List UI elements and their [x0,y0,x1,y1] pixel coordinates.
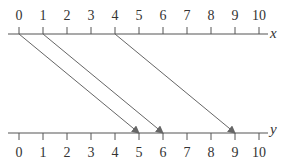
x-tick-label: 2 [64,8,71,23]
x-tick-label: 0 [16,8,23,23]
x-axis-number-line: 012345678910 x [8,8,277,41]
y-axis-variable-label: y [268,121,277,137]
x-tick-label: 9 [232,8,239,23]
y-tick-label: 6 [160,145,167,160]
mapping-arrow [19,34,139,133]
y-axis-number-line: 012345678910 y [8,121,277,160]
y-tick-label: 4 [112,145,119,160]
x-tick-label: 4 [112,8,119,23]
x-tick-label: 10 [252,8,266,23]
y-tick-label: 3 [88,145,95,160]
x-tick-label: 1 [40,8,47,23]
y-tick-label: 9 [232,145,239,160]
x-tick-label: 3 [88,8,95,23]
y-tick-label: 1 [40,145,47,160]
x-tick-label: 7 [184,8,191,23]
x-tick-label: 8 [208,8,215,23]
mapping-arrows [19,34,235,133]
mapping-diagram: 012345678910 x 012345678910 y [0,0,286,163]
y-tick-label: 2 [64,145,71,160]
x-tick-label: 5 [136,8,143,23]
x-tick-label: 6 [160,8,167,23]
y-tick-label: 8 [208,145,215,160]
y-tick-label: 5 [136,145,143,160]
mapping-arrow [115,34,235,133]
y-tick-label: 0 [16,145,23,160]
y-tick-label: 7 [184,145,191,160]
mapping-arrow [43,34,163,133]
y-tick-label: 10 [252,145,266,160]
x-axis-variable-label: x [269,25,277,41]
